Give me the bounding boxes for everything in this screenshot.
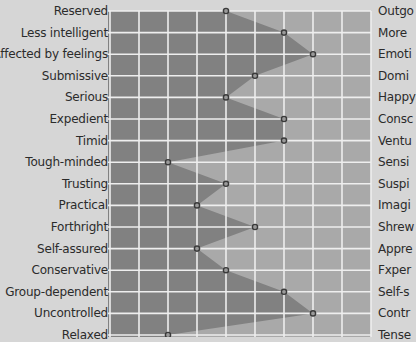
- data-point-marker: [310, 311, 315, 316]
- right-trait-label: Domi: [378, 69, 409, 83]
- data-point-marker: [223, 8, 228, 13]
- right-trait-label: Ventu: [378, 134, 412, 148]
- data-point-marker: [223, 268, 228, 273]
- right-trait-label: Outgo: [378, 4, 414, 18]
- left-trait-label: Less intelligent: [21, 26, 108, 40]
- left-trait-label: Uncontrolled: [34, 306, 108, 320]
- right-trait-label: Contr: [378, 306, 410, 320]
- right-trait-label: Emoti: [378, 47, 412, 61]
- data-point-marker: [252, 224, 257, 229]
- right-trait-label: Happy: [378, 90, 416, 104]
- right-trait-label: Self-s: [378, 285, 409, 299]
- data-point-marker: [281, 138, 286, 143]
- data-point-marker: [194, 246, 199, 251]
- data-point-marker: [165, 160, 170, 165]
- left-trait-label: Timid: [76, 134, 108, 148]
- left-trait-label: Group-dependent: [5, 285, 108, 299]
- left-trait-label: Conservative: [32, 263, 108, 277]
- left-trait-label: Trusting: [62, 177, 108, 191]
- right-trait-label: Suspi: [378, 177, 409, 191]
- left-trait-label: Expedient: [49, 112, 108, 126]
- left-trait-label: Reserved: [54, 4, 108, 18]
- left-trait-label: Serious: [65, 90, 108, 104]
- data-point-marker: [252, 73, 257, 78]
- right-trait-label: Fxper: [378, 263, 411, 277]
- data-point-marker: [223, 181, 228, 186]
- data-point-marker: [310, 52, 315, 57]
- left-trait-label: Self-assured: [37, 242, 108, 256]
- data-point-marker: [281, 289, 286, 294]
- data-point-marker: [223, 95, 228, 100]
- data-point-marker: [281, 30, 286, 35]
- right-trait-label: Consc: [378, 112, 413, 126]
- data-point-marker: [165, 332, 170, 337]
- data-point-marker: [281, 116, 286, 121]
- left-trait-label: Tough-minded: [25, 155, 108, 169]
- right-trait-label: Appre: [378, 242, 413, 256]
- right-trait-label: Sensi: [378, 155, 409, 169]
- left-trait-label: Forthright: [51, 220, 108, 234]
- data-point-marker: [194, 203, 199, 208]
- left-trait-label: Submissive: [42, 69, 108, 83]
- left-trait-label: Practical: [59, 198, 108, 212]
- left-trait-label: Relaxed: [62, 328, 108, 342]
- right-trait-label: Shrew: [378, 220, 414, 234]
- right-trait-label: Imagi: [378, 198, 411, 212]
- left-trait-label: Affected by feelings: [0, 47, 108, 61]
- right-trait-label: More: [378, 26, 407, 40]
- right-trait-label: Tense: [378, 328, 411, 342]
